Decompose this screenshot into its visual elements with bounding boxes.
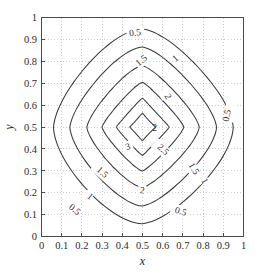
y-tick-label: 0.2: [24, 187, 37, 198]
y-tick-label: 0.8: [24, 56, 37, 67]
y-tick-label: 0: [32, 231, 37, 242]
contour-plot-figure: 00.10.20.30.40.50.60.70.80.9100.10.20.30…: [0, 0, 266, 274]
y-tick-label: 0.5: [24, 122, 37, 133]
x-axis-title: x: [139, 254, 146, 268]
x-tick-label: 0.7: [176, 240, 189, 251]
x-tick-label: 0.1: [55, 240, 68, 251]
x-tick-label: 0.9: [217, 240, 230, 251]
y-axis-title: y: [2, 124, 16, 131]
y-tick-label: 0.1: [24, 209, 37, 220]
x-tick-label: 0.2: [75, 240, 88, 251]
x-tick-label: 0.3: [96, 240, 109, 251]
x-tick-label: 0.5: [136, 240, 149, 251]
contour-line-level-1: [70, 47, 217, 206]
plot-canvas: 00.10.20.30.40.50.60.70.80.9100.10.20.30…: [0, 0, 266, 274]
contour-lines-group: [54, 26, 237, 224]
y-tick-label: 0.9: [24, 34, 37, 45]
x-tick-label: 0: [39, 240, 44, 251]
contour-label-2: 2: [152, 123, 157, 133]
y-tick-label: 0.6: [24, 100, 37, 111]
y-tick-label: 0.3: [24, 166, 37, 177]
contour-label-0.5: 0.5: [129, 27, 142, 38]
y-tick-label: 0.4: [24, 144, 38, 155]
x-tick-label: 0.6: [156, 240, 169, 251]
x-tick-label: 0.4: [116, 240, 130, 251]
y-tick-label: 0.7: [24, 78, 37, 89]
y-tick-label: 1: [32, 12, 37, 23]
x-tick-label: 0.8: [197, 240, 210, 251]
x-tick-label: 1: [241, 240, 246, 251]
